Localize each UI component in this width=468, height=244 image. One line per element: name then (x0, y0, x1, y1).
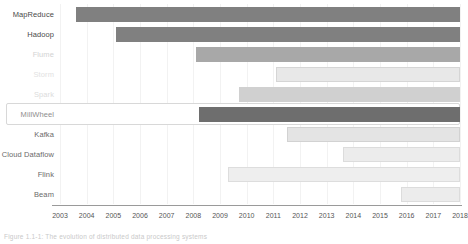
gridline (460, 4, 461, 204)
chart-row: MillWheel (60, 104, 460, 124)
x-tick-2015: 2015 (372, 212, 388, 219)
row-label-storm: Storm (33, 70, 54, 79)
bar-millwheel (199, 107, 460, 122)
x-tick-2012: 2012 (292, 212, 308, 219)
chart-row: Storm (60, 64, 460, 84)
chart-row: Flume (60, 44, 460, 64)
row-label-spark: Spark (34, 90, 54, 99)
chart-row: Flink (60, 164, 460, 184)
row-label-millwheel: MillWheel (21, 110, 54, 119)
x-tick-2006: 2006 (132, 212, 148, 219)
bar-mapreduce (76, 7, 460, 22)
chart-row: Kafka (60, 124, 460, 144)
bar-beam (401, 187, 460, 202)
x-tick-2017: 2017 (426, 212, 442, 219)
x-tick-2007: 2007 (159, 212, 175, 219)
chart-row: Beam (60, 184, 460, 204)
chart-row: Cloud Dataflow (60, 144, 460, 164)
x-tick-2011: 2011 (266, 212, 281, 219)
bar-flink (228, 167, 460, 182)
bar-kafka (287, 127, 460, 142)
bar-hadoop (116, 27, 460, 42)
x-tick-2010: 2010 (239, 212, 255, 219)
row-label-cloud-dataflow: Cloud Dataflow (2, 150, 54, 159)
x-tick-2014: 2014 (346, 212, 362, 219)
row-label-flink: Flink (38, 170, 54, 179)
chart-row: MapReduce (60, 4, 460, 24)
bar-spark (239, 87, 460, 102)
bar-flume (196, 47, 460, 62)
x-tick-2013: 2013 (319, 212, 335, 219)
figure-caption: Figure 1.1-1: The evolution of distribut… (4, 233, 207, 240)
x-axis-line (52, 205, 462, 206)
chart-row: Hadoop (60, 24, 460, 44)
x-tick-2016: 2016 (399, 212, 415, 219)
x-tick-2005: 2005 (106, 212, 122, 219)
x-tick-2018: 2018 (452, 212, 468, 219)
row-label-flume: Flume (33, 50, 54, 59)
x-tick-2003: 2003 (52, 212, 68, 219)
bar-cloud-dataflow (343, 147, 460, 162)
row-label-hadoop: Hadoop (27, 30, 54, 39)
x-tick-2008: 2008 (186, 212, 202, 219)
bar-storm (276, 67, 460, 82)
x-tick-2009: 2009 (212, 212, 228, 219)
plot-area: MapReduceHadoopFlumeStormSparkMillWheelK… (60, 4, 460, 204)
row-label-kafka: Kafka (34, 130, 54, 139)
x-axis-tick-labels: 2003200420052006200720082009201020112012… (60, 212, 460, 224)
x-tick-2004: 2004 (79, 212, 95, 219)
row-label-mapreduce: MapReduce (13, 10, 54, 19)
chart-row: Spark (60, 84, 460, 104)
row-label-beam: Beam (34, 190, 54, 199)
